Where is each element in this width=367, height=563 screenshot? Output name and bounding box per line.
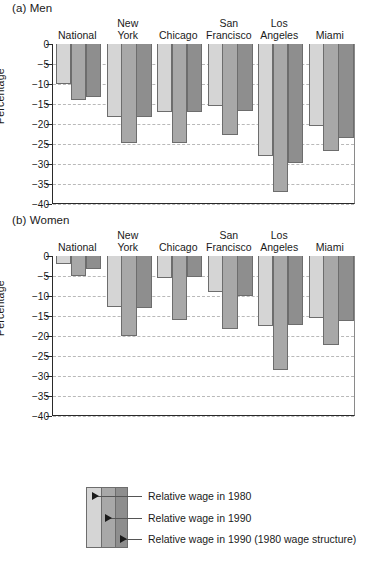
y-axis-tick-label: −10 <box>9 291 49 302</box>
gridline <box>53 396 354 397</box>
gridline <box>53 376 354 377</box>
bar <box>237 256 252 296</box>
bar <box>187 256 202 277</box>
y-axis-tick-label: −15 <box>9 99 49 110</box>
legend-item-label: Relative wage in 1980 <box>148 490 251 502</box>
bar <box>121 44 136 143</box>
y-axis-tick-label: −20 <box>9 331 49 342</box>
bar <box>86 256 101 269</box>
bar <box>273 256 288 370</box>
bar <box>208 256 223 292</box>
gridline <box>53 204 354 205</box>
bar <box>56 256 71 264</box>
gridline <box>53 356 354 357</box>
x-axis-category-label: Miami <box>296 30 365 42</box>
bar <box>172 44 187 143</box>
bar <box>237 44 252 111</box>
plot-area-women <box>52 256 355 416</box>
bar <box>157 44 172 112</box>
bar <box>309 44 324 126</box>
gridline <box>53 164 354 165</box>
y-axis-tick-label: −30 <box>9 371 49 382</box>
bar <box>258 256 273 326</box>
y-axis-tick-label: −25 <box>9 139 49 150</box>
panel-title-men: (a) Men <box>12 2 52 14</box>
gridline <box>53 336 354 337</box>
bar <box>157 256 172 278</box>
bar <box>222 256 237 329</box>
y-axis-tick-label: −25 <box>9 351 49 362</box>
bar <box>136 44 151 117</box>
bar <box>56 44 71 84</box>
gridline <box>53 184 354 185</box>
bar <box>222 44 237 135</box>
y-axis-tick-label: −35 <box>9 391 49 402</box>
bar <box>71 44 86 100</box>
bar <box>309 256 324 318</box>
bar <box>273 44 288 192</box>
y-axis-label-women: Percentage <box>0 280 6 336</box>
y-axis-tick-label: −5 <box>9 271 49 282</box>
chart-legend: Relative wage in 1980Relative wage in 19… <box>0 470 367 563</box>
bar <box>107 44 122 117</box>
y-axis-tick-label: −40 <box>9 199 49 210</box>
bar <box>107 256 122 307</box>
y-axis-label-men: Percentage <box>0 68 6 124</box>
panel-title-women: (b) Women <box>12 214 70 226</box>
y-axis-tick-label: −10 <box>9 79 49 90</box>
bar <box>288 44 303 163</box>
y-axis-tick-label: −35 <box>9 179 49 190</box>
plot-area-men <box>52 44 355 204</box>
bar <box>208 44 223 106</box>
legend-item-label: Relative wage in 1990 (1980 wage structu… <box>148 533 356 545</box>
bar <box>338 256 353 321</box>
x-axis-category-label: Miami <box>296 242 365 254</box>
y-axis-tick-label: −5 <box>9 59 49 70</box>
y-axis-tick-label: −15 <box>9 311 49 322</box>
bar <box>338 44 353 138</box>
bar <box>258 44 273 156</box>
bar <box>323 256 338 345</box>
bar <box>136 256 151 308</box>
bar <box>187 44 202 112</box>
legend-leader-line <box>92 496 142 497</box>
bar <box>172 256 187 320</box>
bar <box>121 256 136 336</box>
legend-arrow-icon <box>105 514 112 522</box>
y-axis-tick-label: −30 <box>9 159 49 170</box>
y-axis-tick-label: −20 <box>9 119 49 130</box>
y-axis-tick-label: −40 <box>9 411 49 422</box>
legend-arrow-icon <box>92 492 99 500</box>
gridline <box>53 416 354 417</box>
bar <box>86 44 101 97</box>
legend-item-label: Relative wage in 1990 <box>148 512 251 524</box>
legend-arrow-icon <box>120 535 127 543</box>
bar <box>71 256 86 276</box>
gridline <box>53 144 354 145</box>
bar <box>323 44 338 151</box>
bar <box>288 256 303 325</box>
